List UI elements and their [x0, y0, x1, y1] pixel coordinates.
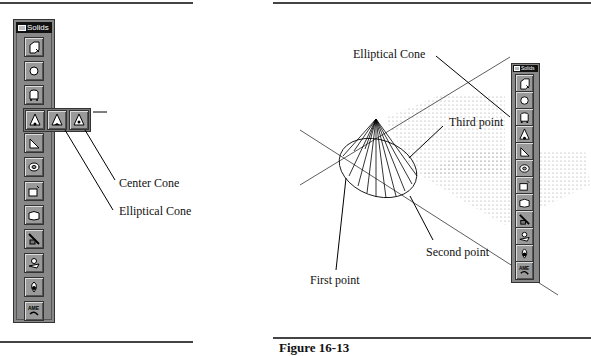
label-elliptical-cone: Elliptical Cone: [353, 47, 425, 62]
sphere-icon: [518, 94, 531, 107]
cone-icon: [518, 128, 531, 141]
revolve-icon: [518, 196, 531, 209]
system-menu-icon[interactable]: [514, 66, 520, 71]
toolbar-title: Solids: [521, 65, 535, 71]
torus-icon: [518, 162, 531, 175]
label-second-point: Second point: [426, 245, 489, 260]
cone-drawing: [0, 0, 591, 356]
label-third-point: Third point: [449, 115, 503, 130]
figure-caption: Figure 16-13: [279, 340, 349, 356]
interfere-icon: [518, 247, 531, 260]
slice-icon: [518, 213, 531, 226]
label-first-point: First point: [310, 273, 360, 288]
wedge-icon: [518, 145, 531, 158]
box-icon: [518, 77, 531, 90]
section-icon: [518, 230, 531, 243]
extrude-icon: [518, 179, 531, 192]
svg-text:AME: AME: [519, 266, 529, 271]
ame-convert-icon: AME: [518, 264, 531, 277]
cylinder-icon: [518, 111, 531, 124]
right-ame-convert-button[interactable]: AME: [515, 261, 534, 280]
toolbar-title-bar[interactable]: Solids: [513, 65, 538, 72]
